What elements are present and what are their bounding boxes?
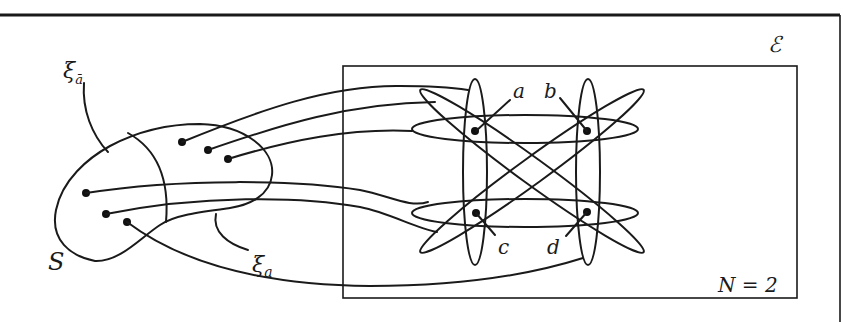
- xi-abar-label: ξā: [63, 58, 83, 87]
- vertex-d-label: d: [547, 235, 560, 259]
- hypergraph-ellipses: [412, 79, 651, 265]
- vertex-points: [471, 127, 591, 217]
- vertex-b-label: b: [544, 79, 557, 103]
- n-equals-label: N = 2: [717, 273, 778, 297]
- vertex-a-label: a: [513, 79, 525, 103]
- outer-frame: [0, 15, 840, 322]
- diagram-canvas: ξā ξa S ℰ N = 2 a b c d: [0, 0, 843, 322]
- xi-a-label: ξa: [252, 252, 272, 280]
- set-s-label: S: [48, 248, 64, 276]
- xi-a-leader: [215, 214, 248, 250]
- xi-abar-leader: [84, 83, 108, 152]
- environment-label: ℰ: [768, 32, 784, 57]
- vertex-c-label: c: [498, 235, 509, 259]
